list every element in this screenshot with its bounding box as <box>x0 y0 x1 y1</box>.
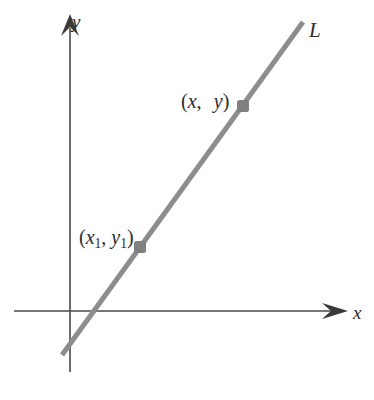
point-marker-x1y1 <box>134 241 146 253</box>
point-marker-xy <box>237 100 249 112</box>
paren-open: ( <box>181 90 188 112</box>
paren-open: ( <box>79 226 86 248</box>
var-x: x <box>188 90 197 112</box>
y-axis-label: y <box>72 12 80 31</box>
line-L <box>62 22 303 355</box>
comma-separator: , <box>101 226 111 248</box>
line-diagram-figure: y x L (x, y) (x1, y1) <box>0 0 374 400</box>
var-x: x <box>86 226 95 248</box>
line-label-L: L <box>309 20 321 41</box>
x-axis-label: x <box>353 303 361 322</box>
var-y: y <box>111 226 120 248</box>
paren-close: ) <box>127 226 134 248</box>
var-y: y <box>214 90 223 112</box>
comma-separator: , <box>197 90 214 112</box>
point-label-xy: (x, y) <box>181 91 229 111</box>
diagram-canvas <box>0 0 374 400</box>
point-label-x1y1: (x1, y1) <box>79 227 134 251</box>
paren-close: ) <box>223 90 230 112</box>
